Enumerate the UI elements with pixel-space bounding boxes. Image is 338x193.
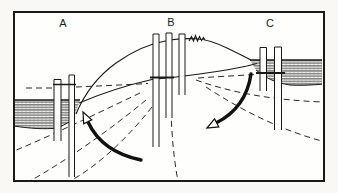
site-label-b: B [167, 16, 174, 28]
site-label-c: C [266, 17, 274, 29]
diagram-canvas: A B C [0, 0, 338, 193]
site-label-a: A [59, 17, 67, 29]
cross-section-figure: A B C [0, 0, 338, 193]
